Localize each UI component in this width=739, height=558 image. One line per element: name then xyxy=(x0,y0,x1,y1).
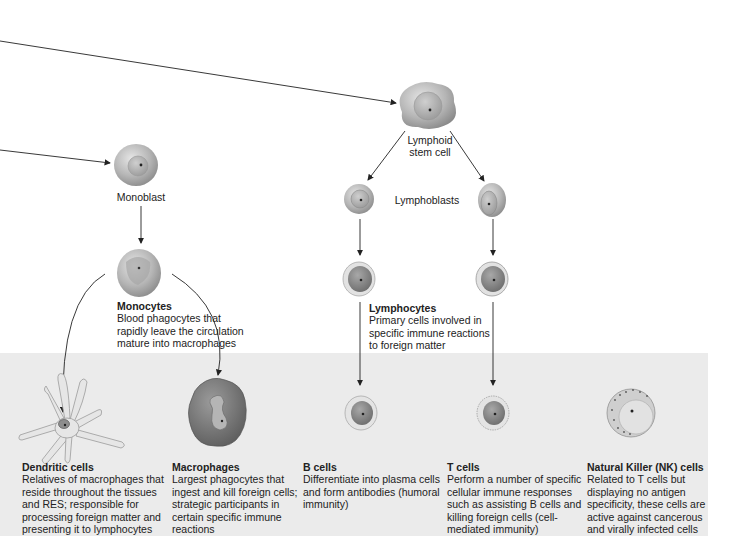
macrophages-title: Macrophages xyxy=(172,461,302,473)
lymphocytes-description: Lymphocytes Primary cells involved in sp… xyxy=(369,302,509,352)
macrophages-body: Largest phagocytes that ingest and kill … xyxy=(172,473,302,535)
lymphocytes-body: Primary cells involved in specific immun… xyxy=(369,314,509,351)
b-cells-body: Differentiate into plasma cells and form… xyxy=(303,473,443,510)
t-cells-description: T cells Perform a number of specific cel… xyxy=(447,461,587,535)
lymphoblast-right xyxy=(478,183,506,217)
b-cells-title: B cells xyxy=(303,461,443,473)
nk-cells-description: Natural Killer (NK) cells Related to T c… xyxy=(587,461,737,535)
arrow-to-lymphoid-stem xyxy=(0,41,396,103)
t-cells-body: Perform a number of specific cellular im… xyxy=(447,473,587,535)
arrow-to-monoblast xyxy=(0,150,110,163)
b-cells-description: B cells Differentiate into plasma cells … xyxy=(303,461,443,511)
lymphoid-stem-label-line2: stem cell xyxy=(400,146,460,158)
lymphoblast-left xyxy=(344,184,374,214)
lymphocyte-left xyxy=(343,262,375,296)
monocyte-cell xyxy=(117,249,161,297)
monocytes-body: Blood phagocytes that rapidly leave the … xyxy=(117,312,257,349)
monocytes-description: Monocytes Blood phagocytes that rapidly … xyxy=(117,300,257,350)
nk-cells-body: Related to T cells but displaying no ant… xyxy=(587,473,737,535)
monocytes-title: Monocytes xyxy=(117,300,257,312)
lymphoblasts-label: Lymphoblasts xyxy=(392,194,462,206)
nk-cells-title: Natural Killer (NK) cells xyxy=(587,461,737,473)
monoblast-cell xyxy=(114,144,158,186)
lymphoid-stem-cell xyxy=(400,82,456,129)
dendritic-cells-description: Dendritic cells Relatives of macrophages… xyxy=(22,461,172,535)
monoblast-label: Monoblast xyxy=(106,191,176,203)
dendritic-cells-body: Relatives of macrophages that reside thr… xyxy=(22,473,172,535)
t-cells-title: T cells xyxy=(447,461,587,473)
dendritic-cells-title: Dendritic cells xyxy=(22,461,172,473)
macrophages-description: Macrophages Largest phagocytes that inge… xyxy=(172,461,302,535)
lymphocytes-title: Lymphocytes xyxy=(369,302,509,314)
lymphoid-stem-label-line1: Lymphoid xyxy=(400,134,460,146)
lymphocyte-right xyxy=(476,262,508,296)
